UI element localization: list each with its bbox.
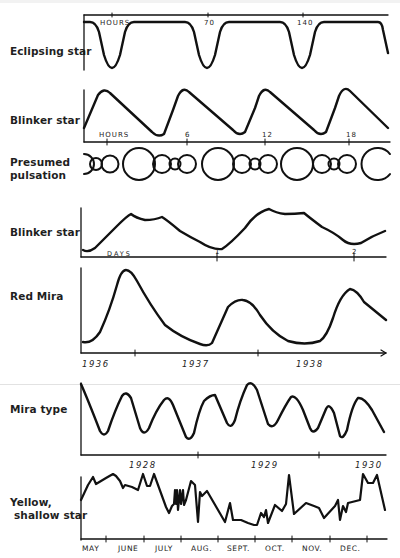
blinker-hours-tick-12: 12 bbox=[262, 131, 273, 139]
mira-type-year-1928: 1928 bbox=[129, 460, 157, 470]
panel-red-mira bbox=[81, 268, 386, 356]
month-may: MAY bbox=[82, 544, 99, 553]
blinker-days-tick-1: 1 bbox=[215, 248, 220, 256]
panel-blinker-star-hours bbox=[84, 89, 390, 145]
month-july: JULY bbox=[155, 544, 173, 553]
month-aug: AUG. bbox=[191, 544, 212, 553]
blinker-days-axis-unit: DAYS bbox=[107, 250, 132, 258]
month-dec: DEC. bbox=[340, 544, 361, 553]
blinker-hours-axis-unit: HOURS bbox=[99, 131, 129, 139]
eclipsing-tick-70: 70 bbox=[204, 19, 215, 27]
month-sept: SEPT. bbox=[227, 544, 250, 553]
red-mira-year-1938: 1938 bbox=[296, 359, 324, 369]
panel-presumed-pulsation bbox=[84, 148, 390, 180]
month-nov: NOV. bbox=[302, 544, 322, 553]
blinker-hours-tick-6: 6 bbox=[185, 131, 190, 139]
red-mira-year-1937: 1937 bbox=[182, 359, 210, 369]
month-june: JUNE bbox=[118, 544, 138, 553]
eclipsing-tick-140: 140 bbox=[297, 19, 313, 27]
mira-type-year-1929: 1929 bbox=[251, 460, 279, 470]
panel-yellow-shallow-star bbox=[81, 474, 387, 542]
red-mira-year-1936: 1936 bbox=[82, 359, 110, 369]
light-curves-diagram bbox=[0, 0, 400, 558]
blinker-days-tick-2: 2 bbox=[352, 248, 357, 256]
mira-type-year-1930: 1930 bbox=[355, 460, 383, 470]
month-oct: OCT. bbox=[265, 544, 285, 553]
blinker-hours-tick-18: 18 bbox=[346, 131, 357, 139]
eclipsing-axis-unit: HOURS bbox=[100, 19, 130, 27]
panel-mira-type bbox=[81, 383, 386, 458]
